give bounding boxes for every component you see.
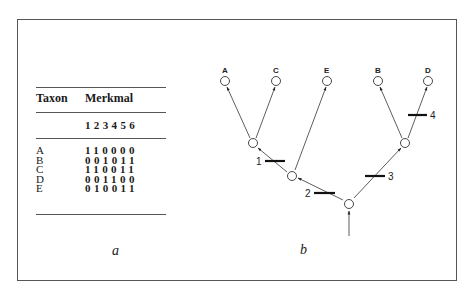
tip-node-e xyxy=(323,77,332,86)
tip-label-a: A xyxy=(222,66,228,75)
branch-ac-c xyxy=(256,87,275,138)
branch-root-bd xyxy=(354,148,401,198)
change-label-1: 1 xyxy=(256,156,262,167)
change-label-4: 4 xyxy=(430,110,436,121)
branch-bd-d xyxy=(408,87,427,138)
tip-label-d: D xyxy=(425,66,431,75)
root-node xyxy=(345,200,354,209)
tip-label-b: B xyxy=(375,66,381,75)
change-label-3: 3 xyxy=(388,171,394,182)
internal-node-ac xyxy=(249,139,258,148)
branch-ace-e xyxy=(295,87,326,170)
tip-node-a xyxy=(221,77,230,86)
tip-label-c: C xyxy=(273,66,279,75)
internal-node-bd xyxy=(401,139,410,148)
tip-node-d xyxy=(424,77,433,86)
tip-label-e: E xyxy=(324,66,330,75)
branch-bd-b xyxy=(380,87,402,138)
tip-node-c xyxy=(272,77,281,86)
branch-ac-a xyxy=(227,87,250,138)
cladogram: A C E B D 1 2 3 4 xyxy=(0,0,476,297)
internal-node-ace xyxy=(288,172,297,181)
tip-node-b xyxy=(374,77,383,86)
change-label-2: 2 xyxy=(305,188,311,199)
